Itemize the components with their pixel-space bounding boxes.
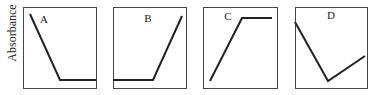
panel-b-label: B — [144, 12, 151, 24]
panel-d-label: D — [327, 9, 335, 21]
panel-c-label: C — [224, 10, 231, 22]
panel-b: B — [113, 8, 187, 89]
panel-c-curve — [210, 18, 272, 81]
panel-a-frame — [24, 8, 97, 89]
panel-a: A — [24, 8, 97, 89]
panel-b-curve — [113, 16, 182, 80]
panels-canvas: A B C D — [0, 0, 378, 95]
panel-c: C — [204, 8, 278, 89]
panel-a-label: A — [40, 13, 48, 25]
panel-d-curve — [295, 22, 365, 81]
y-axis-label: Absorbance — [5, 4, 20, 61]
panel-d: D — [295, 8, 368, 89]
absorbance-figure: Absorbance A B C D — [0, 0, 378, 95]
